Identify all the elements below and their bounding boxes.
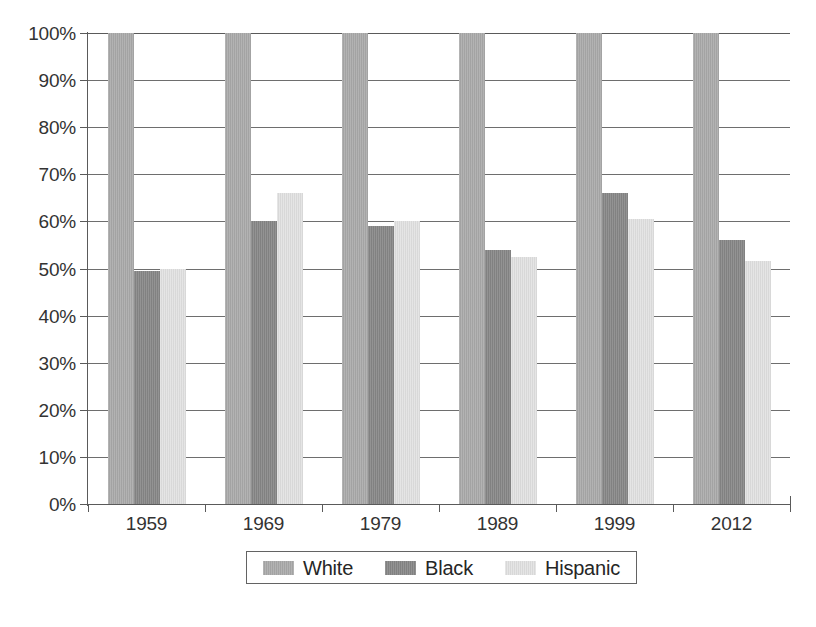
x-tick-mark	[88, 504, 89, 512]
bar-white-1999	[576, 33, 602, 504]
y-tick-mark-10%	[80, 457, 88, 458]
chart-legend: WhiteBlackHispanic	[246, 551, 637, 584]
bar-black-1989	[485, 250, 511, 504]
x-tick-mark	[556, 504, 557, 512]
y-tick-mark-40%	[80, 316, 88, 317]
y-tick-label: 30%	[4, 354, 76, 373]
bar-hispanic-1959	[160, 269, 186, 505]
legend-label: Hispanic	[545, 558, 620, 578]
x-tick-label-1959: 1959	[87, 513, 207, 535]
legend-label: Black	[425, 558, 473, 578]
y-tick-mark-100%	[80, 33, 88, 34]
y-tick-label: 20%	[4, 401, 76, 420]
legend-entry-white[interactable]: White	[263, 558, 353, 578]
gridline-10%	[88, 457, 790, 458]
x-tick-label-1989: 1989	[438, 513, 558, 535]
y-tick-mark-30%	[80, 363, 88, 364]
gridline-20%	[88, 410, 790, 411]
y-tick-label: 50%	[4, 260, 76, 279]
legend-swatch-hispanic-icon	[505, 561, 536, 575]
bar-group-2012	[693, 33, 771, 504]
bar-hispanic-1979	[394, 221, 420, 504]
plot-area	[88, 33, 790, 504]
bar-group-1999	[576, 33, 654, 504]
y-tick-mark-0%	[80, 504, 88, 505]
bar-white-1959	[108, 33, 134, 504]
y-tick-label: 60%	[4, 212, 76, 231]
y-tick-label: 0%	[4, 495, 76, 514]
bar-black-1999	[602, 193, 628, 504]
y-tick-label: 70%	[4, 165, 76, 184]
legend-entry-black[interactable]: Black	[385, 558, 473, 578]
x-tick-label-1999: 1999	[555, 513, 675, 535]
bar-hispanic-1969	[277, 193, 303, 504]
y-tick-mark-60%	[80, 221, 88, 222]
y-tick-mark-20%	[80, 410, 88, 411]
bar-group-1979	[342, 33, 420, 504]
bar-black-1959	[134, 271, 160, 504]
legend-entry-hispanic[interactable]: Hispanic	[505, 558, 620, 578]
legend-label: White	[303, 558, 353, 578]
x-tick-mark	[205, 504, 206, 512]
gridline-30%	[88, 363, 790, 364]
bar-hispanic-1989	[511, 257, 537, 504]
y-tick-label: 90%	[4, 71, 76, 90]
bar-white-1979	[342, 33, 368, 504]
gridline-70%	[88, 174, 790, 175]
legend-swatch-black-icon	[385, 561, 416, 575]
bar-white-1969	[225, 33, 251, 504]
x-tick-label-1979: 1979	[321, 513, 441, 535]
bar-black-1979	[368, 226, 394, 504]
gridline-60%	[88, 221, 790, 222]
y-tick-mark-70%	[80, 174, 88, 175]
y-tick-label: 10%	[4, 448, 76, 467]
y-tick-mark-50%	[80, 269, 88, 270]
x-tick-label-1969: 1969	[204, 513, 324, 535]
gridline-80%	[88, 127, 790, 128]
x-axis-right-cap	[790, 496, 791, 512]
bar-black-1969	[251, 221, 277, 504]
bar-chart: 0%10%20%30%40%50%60%70%80%90%100% 195919…	[0, 0, 816, 627]
x-tick-label-2012: 2012	[672, 513, 792, 535]
x-tick-mark	[439, 504, 440, 512]
y-tick-mark-90%	[80, 80, 88, 81]
bar-group-1959	[108, 33, 186, 504]
legend-swatch-white-icon	[263, 561, 294, 575]
bar-white-2012	[693, 33, 719, 504]
gridline-90%	[88, 80, 790, 81]
bar-white-1989	[459, 33, 485, 504]
y-tick-label: 40%	[4, 307, 76, 326]
y-axis-tick-labels: 0%10%20%30%40%50%60%70%80%90%100%	[0, 0, 76, 627]
bar-hispanic-1999	[628, 219, 654, 504]
bar-hispanic-2012	[745, 261, 771, 504]
x-tick-mark	[322, 504, 323, 512]
y-tick-label: 100%	[4, 24, 76, 43]
gridline-40%	[88, 316, 790, 317]
x-tick-mark	[673, 504, 674, 512]
gridline-50%	[88, 269, 790, 270]
y-tick-mark-80%	[80, 127, 88, 128]
bar-group-1969	[225, 33, 303, 504]
gridline-100%	[88, 33, 790, 34]
y-tick-label: 80%	[4, 118, 76, 137]
bar-black-2012	[719, 240, 745, 504]
bar-group-1989	[459, 33, 537, 504]
